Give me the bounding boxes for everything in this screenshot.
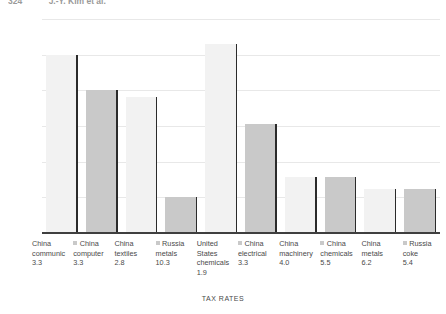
bar [245,124,277,233]
category-line-2: States [197,249,238,259]
category-line-1: United [197,239,238,249]
x-axis-category-label: Russiacoke5.4 [403,239,444,289]
legend-swatch-icon [156,241,160,245]
x-axis-category-label: Chinamachinery4.0 [279,239,320,289]
bars-container [42,19,440,233]
category-line-2: electrical [238,249,279,259]
category-tax-rate: 6.2 [362,258,403,268]
bar-right-edge [315,177,316,233]
bar-right-edge [76,55,77,233]
x-axis-category-label: Chinacommunic3.3 [32,239,73,289]
category-tax-rate: 3.3 [238,258,279,268]
category-line-1: China [279,239,320,249]
legend-swatch-icon [403,241,407,245]
bar [325,177,357,233]
bar-fill [86,90,118,233]
x-axis-category-label: UnitedStateschemicals1.9 [197,239,238,289]
x-axis-category-label: Russiametals10.3 [156,239,197,289]
category-line-2: metals [362,249,403,259]
bar-fill [404,189,436,233]
category-line-2: chemicals [320,249,361,259]
bar-fill [325,177,357,233]
x-axis-baseline [42,232,440,234]
x-axis-category-labels: Chinacommunic3.3Chinacomputer3.3Chinatex… [32,239,444,289]
x-axis-category-label: Chinametals6.2 [362,239,403,289]
bar-fill [245,124,277,233]
category-tax-rate: 3.3 [73,258,114,268]
bar-right-edge [116,90,117,233]
category-line-1: China [320,239,361,249]
bar [404,189,436,233]
category-tax-rate: 4.0 [279,258,320,268]
bar-fill [165,197,197,233]
bar-right-edge [236,44,237,233]
x-axis-title: TAX RATES [0,295,446,302]
category-tax-rate: 5.4 [403,258,444,268]
category-line-2: textiles [114,249,155,259]
bar-right-edge [275,124,276,233]
x-axis-category-label: Chinatextiles2.8 [114,239,155,289]
bar [285,177,317,233]
category-line-2: communic [32,249,73,259]
bar-right-edge [435,189,436,233]
category-line-1: China [32,239,73,249]
bar-right-edge [355,177,356,233]
category-line-2: machinery [279,249,320,259]
category-line-2: computer [73,249,114,259]
plot-area [42,19,440,233]
bar [46,55,78,233]
category-line-1: China [238,239,279,249]
category-line-1: Russia [403,239,444,249]
category-tax-rate: 2.8 [114,258,155,268]
category-line-1: China [73,239,114,249]
bar-fill [364,189,396,233]
bar-fill [46,55,78,233]
category-line-1: China [362,239,403,249]
bar [126,97,158,233]
bar [364,189,396,233]
legend-swatch-icon [238,241,242,245]
bar-fill [126,97,158,233]
category-line-1: China [114,239,155,249]
bar-right-edge [156,97,157,233]
bar-right-edge [196,197,197,233]
bar-chart-figure: TRADE VOLUME 302520151050 Chinacommunic3… [0,0,446,314]
category-tax-rate: 3.3 [32,258,73,268]
category-line-2: metals [156,249,197,259]
bar-right-edge [395,189,396,233]
bar-fill [285,177,317,233]
x-axis-category-label: Chinaelectrical3.3 [238,239,279,289]
category-line-2: coke [403,249,444,259]
category-tax-rate: 10.3 [156,258,197,268]
category-tax-rate: 1.9 [197,268,238,278]
x-axis-category-label: Chinachemicals5.5 [320,239,361,289]
category-line-3: chemicals [197,258,238,268]
bar [165,197,197,233]
category-tax-rate: 5.5 [320,258,361,268]
bar [86,90,118,233]
category-line-1: Russia [156,239,197,249]
legend-swatch-icon [73,241,77,245]
bar-fill [205,44,237,233]
bar [205,44,237,233]
legend-swatch-icon [320,241,324,245]
x-axis-category-label: Chinacomputer3.3 [73,239,114,289]
